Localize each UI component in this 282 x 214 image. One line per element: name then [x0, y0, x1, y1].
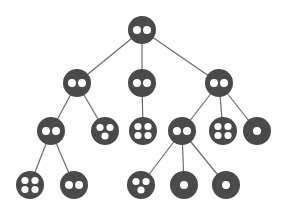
node-hole-icon [101, 132, 108, 139]
node-hole-icon [137, 186, 144, 193]
tree-node-3-hole [127, 171, 155, 199]
node-hole-icon [143, 26, 151, 34]
tree-node-1-hole [170, 171, 198, 199]
tree-nodes [16, 16, 271, 199]
node-hole-icon [106, 124, 113, 131]
node-disc [127, 171, 155, 199]
node-disc [91, 117, 119, 145]
node-hole-icon [222, 181, 230, 189]
tree-node-3-hole [91, 117, 119, 145]
tree-node-2-hole [60, 171, 88, 199]
node-hole-icon [134, 132, 141, 139]
node-hole-icon [133, 26, 141, 34]
node-disc [128, 16, 156, 44]
node-hole-icon [68, 79, 76, 87]
node-disc [205, 69, 233, 97]
node-hole-icon [142, 178, 149, 185]
tree-edges [30, 30, 257, 185]
tree-node-1-hole [212, 171, 240, 199]
node-hole-icon [31, 177, 38, 184]
node-disc [209, 117, 237, 145]
node-disc [60, 171, 88, 199]
node-hole-icon [96, 124, 103, 131]
tree-node-1-hole [243, 117, 271, 145]
node-hole-icon [52, 127, 60, 135]
node-hole-icon [180, 181, 188, 189]
node-disc [168, 117, 196, 145]
node-hole-icon [214, 123, 221, 130]
node-hole-icon [134, 123, 141, 130]
node-hole-icon [220, 79, 228, 87]
node-hole-icon [224, 123, 231, 130]
node-hole-icon [21, 186, 28, 193]
node-hole-icon [183, 127, 191, 135]
tree-diagram [0, 0, 282, 214]
node-disc [16, 171, 44, 199]
tree-node-2-hole [37, 117, 65, 145]
node-hole-icon [224, 132, 231, 139]
node-hole-icon [132, 178, 139, 185]
tree-node-2-hole [205, 69, 233, 97]
node-hole-icon [65, 181, 73, 189]
tree-node-2-hole [63, 69, 91, 97]
node-hole-icon [253, 127, 261, 135]
node-hole-icon [144, 123, 151, 130]
node-hole-icon [31, 186, 38, 193]
node-disc [129, 117, 157, 145]
node-hole-icon [210, 79, 218, 87]
tree-node-4-hole [209, 117, 237, 145]
node-hole-icon [173, 127, 181, 135]
node-hole-icon [143, 79, 151, 87]
tree-node-2-hole [168, 117, 196, 145]
node-hole-icon [78, 79, 86, 87]
node-hole-icon [144, 132, 151, 139]
node-hole-icon [42, 127, 50, 135]
tree-node-2-hole [128, 16, 156, 44]
node-disc [37, 117, 65, 145]
node-disc [63, 69, 91, 97]
tree-edge [142, 30, 219, 83]
node-hole-icon [75, 181, 83, 189]
node-disc [128, 69, 156, 97]
node-hole-icon [21, 177, 28, 184]
tree-node-4-hole [16, 171, 44, 199]
tree-node-2-hole [128, 69, 156, 97]
node-hole-icon [133, 79, 141, 87]
node-hole-icon [214, 132, 221, 139]
tree-node-4-hole [129, 117, 157, 145]
